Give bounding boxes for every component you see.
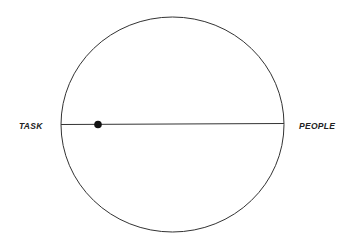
people-label: PEOPLE [299, 121, 335, 131]
task-label: TASK [19, 121, 43, 131]
position-marker [94, 121, 102, 129]
